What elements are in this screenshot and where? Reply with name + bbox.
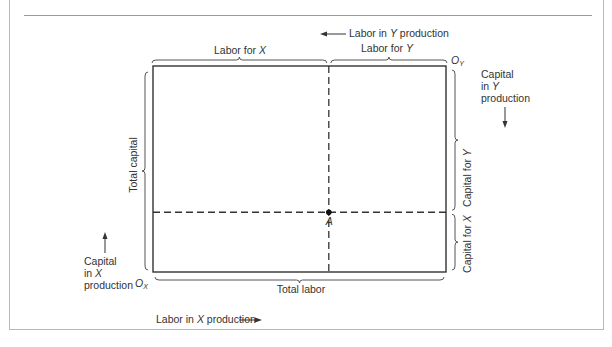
point-a — [326, 209, 332, 215]
arrow-left-icon — [320, 32, 346, 37]
svg-text:in Y: in Y — [481, 80, 500, 92]
labor-for-y-label: Labor for Y — [361, 42, 414, 54]
total-labor-label: Total labor — [277, 283, 326, 295]
capital-for-y-brace — [452, 70, 458, 210]
labor-in-x-production-label: Labor in X production — [156, 313, 256, 325]
origin-oy-label: OY — [451, 54, 465, 67]
total-capital-label: Total capital — [127, 137, 139, 192]
point-a-label: A — [325, 215, 333, 227]
capital-in-x-production-label: Capital in X production — [84, 255, 133, 291]
total-capital-brace — [142, 72, 148, 270]
labor-in-y-production-label: Labor in Y production — [349, 27, 449, 39]
capital-for-x-brace — [452, 214, 458, 270]
svg-text:Capital: Capital — [84, 255, 117, 267]
origin-ox-label: OX — [135, 277, 148, 290]
capital-in-y-production-label: Capital in Y production — [481, 68, 530, 104]
arrow-down-icon — [503, 107, 508, 128]
labor-for-x-brace — [152, 57, 327, 63]
edgeworth-box — [153, 66, 446, 272]
labor-for-x-label: Labor for X — [214, 44, 267, 56]
labor-for-y-brace — [331, 57, 447, 63]
svg-text:production: production — [481, 92, 530, 104]
edgeworth-box-diagram: A Labor in Y production Labor for X Labo… — [0, 0, 612, 347]
svg-text:in X: in X — [84, 267, 103, 279]
svg-text:Capital: Capital — [481, 68, 514, 80]
capital-for-y-label: Capital for Y — [461, 148, 473, 207]
capital-for-x-label: Capital for X — [461, 214, 473, 273]
svg-text:production: production — [84, 279, 133, 291]
arrow-up-icon — [103, 232, 108, 253]
